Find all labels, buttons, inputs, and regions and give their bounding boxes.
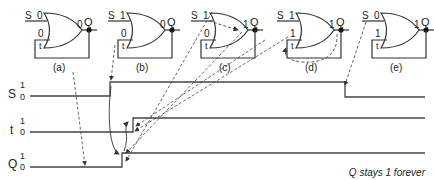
- svg-text:1: 1: [120, 10, 126, 21]
- svg-text:0: 0: [20, 162, 25, 172]
- svg-text:1: 1: [203, 10, 209, 21]
- svg-text:t: t: [376, 41, 379, 51]
- svg-text:t: t: [10, 123, 14, 137]
- waveform-q: [30, 153, 425, 167]
- svg-text:Q: Q: [250, 16, 259, 28]
- caption-b: (b): [136, 62, 148, 73]
- svg-text:S: S: [362, 10, 369, 21]
- signal-s-label: S 1 0: [8, 80, 25, 102]
- svg-text:Q: Q: [167, 16, 176, 28]
- caption-e: (e): [390, 62, 402, 73]
- svg-text:0: 0: [160, 19, 166, 30]
- gate-e: S 0 1 t 1 Q (e): [362, 10, 434, 73]
- svg-text:1: 1: [20, 116, 25, 126]
- waveform-s: [30, 82, 425, 97]
- caption-c: (c): [219, 62, 231, 73]
- svg-text:0: 0: [77, 19, 83, 30]
- waveform-t: [30, 118, 425, 132]
- svg-text:t: t: [205, 41, 208, 51]
- svg-text:0: 0: [20, 127, 25, 137]
- svg-text:0: 0: [20, 92, 25, 102]
- svg-text:t: t: [291, 41, 294, 51]
- svg-text:1: 1: [329, 19, 335, 30]
- caption-a: (a): [53, 62, 65, 73]
- svg-text:1: 1: [414, 19, 420, 30]
- signal-t-label: t 1 0: [10, 116, 25, 137]
- svg-text:1: 1: [289, 10, 295, 21]
- svg-text:1: 1: [243, 19, 249, 30]
- svg-text:1: 1: [290, 28, 296, 39]
- svg-text:1: 1: [20, 151, 25, 161]
- svg-text:S: S: [108, 10, 115, 21]
- svg-text:Q: Q: [8, 157, 17, 171]
- svg-text:S: S: [277, 10, 284, 21]
- svg-text:0: 0: [121, 28, 127, 39]
- svg-text:t: t: [39, 41, 42, 51]
- gate-d: S 1 1 t 1 Q (d): [277, 10, 349, 73]
- svg-text:Q: Q: [421, 16, 430, 28]
- caption-d: (d): [305, 62, 317, 73]
- svg-text:0: 0: [204, 28, 210, 39]
- svg-text:S: S: [191, 10, 198, 21]
- svg-text:0: 0: [37, 10, 43, 21]
- svg-text:0: 0: [38, 28, 44, 39]
- svg-text:t: t: [122, 41, 125, 51]
- gate-c: S 1 0 t 1 Q (c): [191, 10, 263, 73]
- svg-text:S: S: [8, 87, 16, 101]
- svg-text:Q: Q: [84, 16, 93, 28]
- or-gate-latch-timing-diagram: S 0 0 t 0 Q (a) S 1 0 t 0 Q (b) S 1 0 t …: [0, 0, 434, 180]
- svg-text:1: 1: [20, 80, 25, 90]
- gate-a: S 0 0 t 0 Q (a): [25, 10, 97, 73]
- svg-text:1: 1: [375, 28, 381, 39]
- gate-s-label: S: [25, 10, 32, 21]
- gate-b: S 1 0 t 0 Q (b): [108, 10, 180, 73]
- svg-text:0: 0: [374, 10, 380, 21]
- annotation-q-stays: Q stays 1 forever: [349, 167, 426, 178]
- signal-q-label: Q 1 0: [8, 151, 25, 172]
- svg-text:Q: Q: [336, 16, 345, 28]
